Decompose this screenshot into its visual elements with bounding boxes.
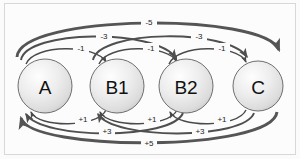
edge-weight-b2-c: -1 [218,44,226,53]
node-b1[interactable]: B1 [90,59,144,113]
edge-weight-c-a: +5 [144,139,154,148]
node-c-label: C [251,77,265,98]
edge-weight-c-b1: +3 [195,127,205,136]
nodes-group: A B1 B2 C [18,59,283,113]
diagram-svg: A B1 B2 C -1 -1 -1 -3 [0,0,300,159]
node-b2[interactable]: B2 [159,59,213,113]
node-a[interactable]: A [18,59,72,113]
edge-weight-a-b1: -1 [77,44,85,53]
node-a-label: A [39,77,52,98]
edge-weight-c-b2: +1 [217,115,227,124]
edge-weight-b2-a: +3 [102,127,112,136]
edge-weight-a-c: -5 [145,18,153,27]
edge-weight-a-b2: -3 [100,32,108,41]
diagram-canvas: A B1 B2 C -1 -1 -1 -3 [0,0,300,159]
edge-weight-b1-a: +1 [78,115,88,124]
node-b1-label: B1 [105,77,128,98]
edge-weight-b1-b2: -1 [147,44,155,53]
node-b2-label: B2 [174,77,197,98]
edge-weight-b1-c: -3 [195,32,203,41]
node-c[interactable]: C [233,61,283,111]
edge-weight-b2-b1: +1 [147,115,157,124]
